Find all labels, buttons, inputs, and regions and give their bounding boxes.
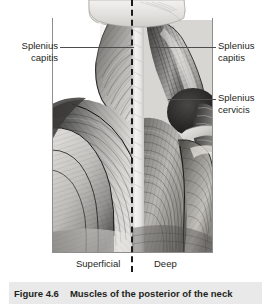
label-line-1: Splenius xyxy=(218,92,272,104)
label-splenius-capitis-right: Splenius capitis xyxy=(218,40,272,63)
midline-divider-dashed xyxy=(131,0,133,272)
figure-caption-text: Muscles of the posterior of the neck xyxy=(70,288,233,299)
leader-line-splenius-capitis-left xyxy=(60,47,134,48)
view-label-superficial: Superficial xyxy=(76,258,120,269)
label-splenius-capitis-left: Splenius capitis xyxy=(2,40,58,63)
label-splenius-cervicis: Splenius cervicis xyxy=(218,92,272,115)
label-line-2: capitis xyxy=(218,52,272,64)
label-line-1: Splenius xyxy=(2,40,58,52)
view-label-deep: Deep xyxy=(154,258,177,269)
figure-number: Figure 4.6 xyxy=(14,288,59,299)
label-line-2: cervicis xyxy=(218,104,272,116)
illustration-frame-right xyxy=(212,18,213,253)
figure-body: Splenius capitis Splenius capitis Spleni… xyxy=(0,0,272,282)
leader-line-splenius-capitis-right xyxy=(150,47,216,48)
leader-line-splenius-cervicis xyxy=(168,99,216,100)
figure-caption-bar: Figure 4.6 Muscles of the posterior of t… xyxy=(9,282,262,304)
label-line-2: capitis xyxy=(2,52,58,64)
label-line-1: Splenius xyxy=(218,40,272,52)
